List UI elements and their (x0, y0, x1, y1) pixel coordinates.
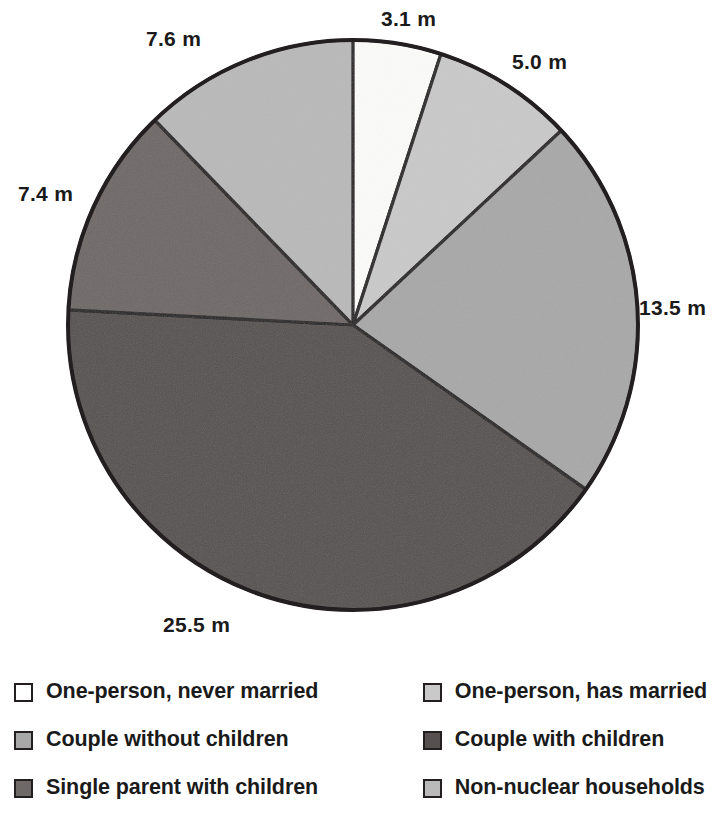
legend-item-couple-with-children[interactable]: Couple with children (420, 729, 719, 751)
pie-value-label: 13.5 m (639, 297, 706, 318)
legend-item-non-nuclear-households[interactable]: Non-nuclear households (420, 777, 719, 799)
legend-swatch-icon (423, 779, 442, 798)
legend-swatch-icon (423, 731, 442, 750)
legend-swatch-icon (14, 683, 33, 702)
pie-value-label: 7.6 m (146, 28, 201, 49)
legend-swatch-icon (14, 779, 33, 798)
legend-swatch-icon (14, 731, 33, 750)
legend-swatch-icon (423, 683, 442, 702)
chart-legend: One-person, never married One-person, ha… (0, 668, 725, 813)
pie-value-label: 3.1 m (381, 8, 436, 29)
legend-item-couple-without-children[interactable]: Couple without children (6, 729, 420, 751)
legend-label: One-person, has married (455, 681, 707, 703)
pie-value-label: 5.0 m (512, 51, 567, 72)
pie-chart-figure: 3.1 m5.0 m13.5 m25.5 m7.4 m7.6 m One-per… (0, 0, 725, 813)
pie-value-label: 25.5 m (163, 614, 230, 635)
legend-row: Couple without children Couple with chil… (6, 716, 719, 764)
legend-label: Non-nuclear households (455, 777, 705, 799)
legend-label: Couple without children (46, 729, 289, 751)
pie-slices-group (68, 40, 638, 610)
pie-value-label: 7.4 m (18, 183, 73, 204)
legend-item-one-person-has-married[interactable]: One-person, has married (420, 681, 719, 703)
legend-item-single-parent-with-children[interactable]: Single parent with children (6, 777, 420, 799)
legend-label: One-person, never married (46, 681, 318, 703)
legend-label: Single parent with children (46, 777, 318, 799)
legend-row: One-person, never married One-person, ha… (6, 668, 719, 716)
legend-label: Couple with children (455, 729, 664, 751)
pie-chart-area: 3.1 m5.0 m13.5 m25.5 m7.4 m7.6 m (0, 0, 725, 655)
legend-item-one-person-never-married[interactable]: One-person, never married (6, 681, 420, 703)
pie-chart-svg (0, 0, 725, 655)
legend-row: Single parent with children Non-nuclear … (6, 764, 719, 812)
